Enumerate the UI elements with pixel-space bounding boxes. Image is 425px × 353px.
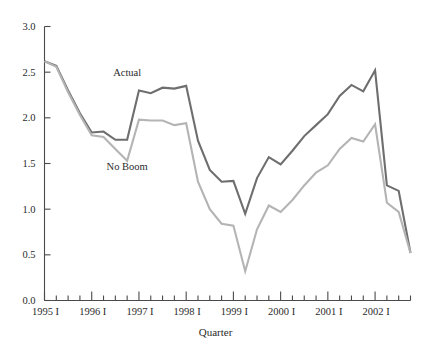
series-lines xyxy=(45,61,411,271)
x-tick-label: 2000 I xyxy=(268,306,296,317)
y-tick-label: 1.5 xyxy=(22,158,35,169)
y-tick-label: 2.0 xyxy=(22,112,35,123)
y-tick-label: 0.5 xyxy=(22,249,35,260)
x-tick-label: 2001 I xyxy=(315,306,343,317)
series-line-no-boom xyxy=(45,61,411,271)
y-axis: 0.00.51.01.52.02.53.0 xyxy=(22,21,50,306)
x-tick-label: 1995 I xyxy=(32,306,60,317)
x-tick-label: 1996 I xyxy=(79,306,107,317)
y-tick-label: 0.0 xyxy=(22,295,35,306)
chart-container: 0.00.51.01.52.02.53.0 1995 I1996 I1997 I… xyxy=(0,0,425,353)
series-label-no-boom: No Boom xyxy=(107,161,148,172)
line-chart-plot: 0.00.51.01.52.02.53.0 1995 I1996 I1997 I… xyxy=(0,0,425,353)
y-tick-label: 2.5 xyxy=(22,67,35,78)
x-axis-title: Quarter xyxy=(199,326,233,338)
y-tick-label: 1.0 xyxy=(22,204,35,215)
y-tick-label: 3.0 xyxy=(22,21,35,32)
series-label-actual: Actual xyxy=(113,67,141,78)
x-axis: 1995 I1996 I1997 I1998 I1999 I2000 I2001… xyxy=(32,292,411,317)
x-tick-label: 1998 I xyxy=(174,306,202,317)
x-tick-label: 2002 I xyxy=(363,306,391,317)
x-tick-label: 1999 I xyxy=(221,306,249,317)
x-tick-label: 1997 I xyxy=(126,306,154,317)
